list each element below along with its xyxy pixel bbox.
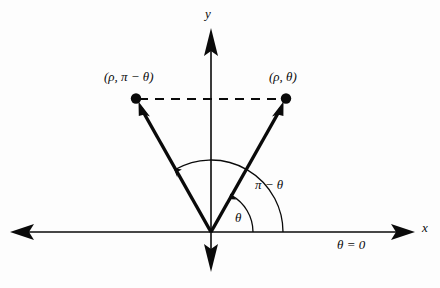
- ray-pi-minus-theta: [139, 102, 212, 233]
- ray-pi-minus-theta-arrowhead: [139, 102, 151, 117]
- x-axis-label: x: [422, 221, 428, 234]
- point-dot-rho-theta: [281, 93, 291, 103]
- y-axis-label: y: [205, 7, 211, 20]
- y-axis: [204, 28, 218, 272]
- outer-angle-label-pi-minus-theta: π − θ: [255, 178, 283, 191]
- point-dot-rho-pi-minus-theta: [131, 93, 141, 103]
- ray-theta-arrowhead: [272, 102, 284, 117]
- x-axis-angle-zero-label: θ = 0: [337, 238, 365, 251]
- ray-pi-minus-theta-line: [141, 108, 211, 232]
- inner-angle-label-theta: θ: [235, 211, 241, 224]
- ray-theta: [211, 102, 284, 233]
- diagram-canvas: [0, 0, 440, 288]
- point-label-rho-pi-minus-theta: (ρ, π − θ): [104, 70, 154, 83]
- polar-coordinate-diagram: y x (ρ, π − θ) (ρ, θ) θ π − θ θ = 0: [0, 0, 440, 288]
- ray-theta-line: [211, 108, 281, 232]
- point-label-rho-theta: (ρ, θ): [269, 70, 297, 83]
